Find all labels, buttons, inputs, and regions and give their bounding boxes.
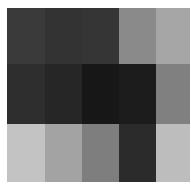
mosaic-cell-r1-c3 — [119, 64, 156, 124]
mosaic-cell-r0-c0 — [7, 8, 45, 64]
mosaic-cell-r2-c2 — [82, 124, 119, 182]
mosaic-cell-r1-c2 — [82, 64, 119, 124]
mosaic-cell-r2-c1 — [45, 124, 82, 182]
mosaic-cell-r2-c4 — [156, 124, 190, 182]
mosaic-cell-r1-c1 — [45, 64, 82, 124]
mosaic-cell-r0-c4 — [156, 8, 190, 64]
mosaic-cell-r1-c0 — [7, 64, 45, 124]
mosaic-cell-r2-c0 — [7, 124, 45, 182]
mosaic-cell-r2-c3 — [119, 124, 156, 182]
mosaic-cell-r0-c2 — [82, 8, 119, 64]
mosaic-cell-r0-c1 — [45, 8, 82, 64]
mosaic-grid — [7, 8, 190, 182]
mosaic-cell-r0-c3 — [119, 8, 156, 64]
mosaic-cell-r1-c4 — [156, 64, 190, 124]
